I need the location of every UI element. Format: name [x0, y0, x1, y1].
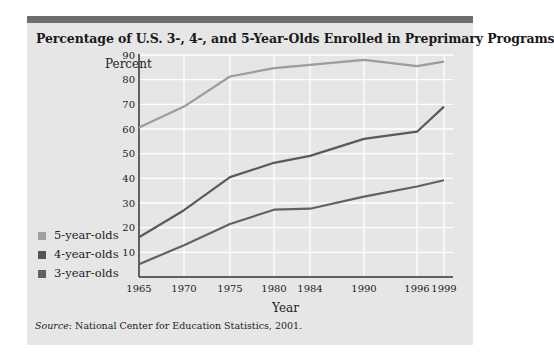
x-tick-label: 1984	[297, 283, 322, 294]
y-tick-label: 20	[122, 222, 135, 233]
x-tick-label: 1965	[126, 283, 151, 294]
y-tick-label: 70	[122, 99, 135, 110]
x-tick-label: 1980	[261, 283, 286, 294]
x-tick-label: 1996	[404, 283, 429, 294]
x-tick-label: 1970	[171, 283, 196, 294]
y-tick-label: 60	[122, 124, 135, 135]
series-line-5-year-olds	[139, 60, 444, 128]
y-tick-label: 80	[122, 74, 135, 85]
y-tick-label: 40	[122, 173, 135, 184]
series-line-3-year-olds	[139, 180, 444, 264]
x-tick-label: 1999	[431, 283, 456, 294]
x-tick-label: 1975	[217, 283, 242, 294]
y-tick-label: 90	[122, 50, 135, 61]
y-tick-label: 10	[122, 247, 135, 258]
y-tick-label: 50	[122, 148, 135, 159]
x-tick-label: 1990	[351, 283, 376, 294]
series-line-4-year-olds	[139, 107, 444, 238]
y-tick-label: 30	[122, 198, 135, 209]
